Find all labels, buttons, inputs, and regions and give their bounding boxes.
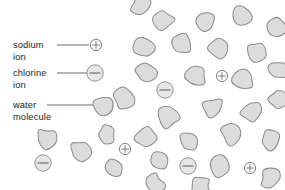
water-molecule — [105, 159, 122, 177]
water-molecule — [151, 152, 168, 169]
legend-label-line2: molecule — [13, 112, 51, 122]
water-molecule — [268, 63, 285, 78]
water-molecule-blob-icon — [151, 152, 168, 169]
legend-label-line2: ion — [13, 80, 26, 90]
water-molecule — [267, 17, 285, 36]
water-molecule-blob-icon — [262, 130, 280, 151]
water-molecule — [133, 37, 155, 56]
water-molecule-blob-icon — [130, 0, 151, 15]
water-molecule-blob-icon — [192, 177, 210, 190]
water-molecule-blob-icon — [220, 123, 240, 146]
water-molecule-blob-icon — [38, 129, 57, 149]
water-molecule-blob-icon — [99, 125, 114, 144]
water-molecule-blob-icon — [113, 87, 135, 109]
water-molecule — [262, 130, 280, 151]
water-molecule-blob-icon — [172, 33, 191, 52]
scene-sodium-1 — [216, 70, 227, 81]
scene-chlorine-2 — [35, 155, 51, 171]
water-molecule — [130, 0, 151, 15]
scene-chlorine-1 — [157, 82, 173, 98]
water-molecule-blob-icon — [184, 66, 205, 85]
water-molecule — [180, 133, 197, 150]
water-molecule-blob-icon — [233, 6, 252, 25]
legend-label-line1: sodium — [13, 40, 44, 50]
water-molecule — [196, 13, 215, 32]
scene-chlorine-3 — [180, 158, 196, 174]
legend-marker-sodium-ion — [90, 39, 101, 50]
salt-water-diagram: sodiumionchlorineionwatermolecule — [0, 0, 285, 190]
water-molecule — [232, 69, 253, 88]
water-molecule — [152, 11, 175, 31]
water-molecule-blob-icon — [202, 99, 222, 118]
water-molecule — [158, 106, 180, 129]
water-molecule-blob-icon — [232, 69, 253, 88]
water-molecule — [202, 99, 222, 118]
water-molecule-blob-icon — [158, 106, 180, 129]
water-molecule — [146, 173, 166, 190]
water-molecule — [99, 125, 114, 144]
water-molecule-blob-icon — [152, 11, 175, 31]
water-molecule — [240, 102, 262, 122]
water-molecule — [210, 155, 229, 178]
water-molecule — [184, 66, 205, 85]
water-molecule-blob-icon — [268, 63, 285, 78]
water-molecule — [71, 143, 92, 162]
water-molecule-blob-icon — [240, 102, 262, 122]
water-molecule-blob-icon — [71, 143, 92, 162]
water-molecule — [220, 123, 240, 146]
water-molecule — [172, 33, 191, 52]
water-molecule-blob-icon — [261, 168, 280, 188]
water-molecule — [38, 129, 57, 149]
water-molecule-blob-icon — [268, 90, 285, 108]
legend-label-line2: ion — [13, 52, 26, 62]
water-molecule — [135, 63, 158, 81]
water-molecule-blob-icon — [134, 126, 157, 146]
water-molecule-blob-icon — [180, 133, 197, 150]
water-molecule — [261, 168, 280, 188]
legend-marker-chlorine-ion — [87, 65, 103, 81]
water-molecule-blob-icon — [248, 43, 267, 62]
water-molecule-blob-icon — [196, 13, 215, 32]
scene-sodium-3 — [244, 162, 255, 173]
water-molecule — [134, 126, 157, 146]
water-molecule-blob-icon — [105, 159, 122, 177]
legend-label-line1: chlorine — [13, 68, 47, 78]
water-molecule-blob-icon — [133, 37, 155, 56]
water-molecule-blob-icon — [210, 155, 229, 178]
water-molecule — [248, 43, 267, 62]
diagram-canvas: sodiumionchlorineionwatermolecule — [0, 0, 285, 190]
legend-label-line1: water — [12, 100, 36, 110]
water-molecule — [233, 6, 252, 25]
water-molecule-blob-icon — [207, 38, 227, 59]
water-molecule — [207, 38, 227, 59]
water-molecule-blob-icon — [267, 17, 285, 36]
water-molecule — [192, 177, 210, 190]
water-molecule — [268, 90, 285, 108]
water-molecule — [113, 87, 135, 109]
water-molecule-blob-icon — [135, 63, 158, 81]
water-molecule-blob-icon — [146, 173, 166, 190]
scene-sodium-2 — [119, 143, 130, 154]
